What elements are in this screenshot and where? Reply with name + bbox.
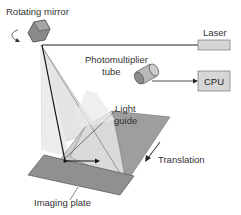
label-rotating-mirror: Rotating mirror — [6, 6, 69, 17]
label-translation: Translation — [158, 154, 205, 165]
translation-arrowhead-icon — [145, 155, 151, 162]
label-imaging-plate: Imaging plate — [34, 197, 91, 208]
cr-reader-diagram: Rotating mirror Laser Photomultiplier tu… — [0, 0, 241, 215]
label-cpu: CPU — [204, 76, 224, 87]
laser-box — [198, 40, 230, 50]
rotating-mirror — [28, 20, 50, 42]
label-photomultiplier-2: tube — [102, 66, 121, 77]
label-light-guide-1: Light — [115, 103, 136, 114]
pmt-cpu-arrowhead — [193, 79, 198, 84]
label-light-guide-2: guide — [114, 115, 137, 126]
photomultiplier-tube — [132, 62, 160, 85]
label-photomultiplier-1: Photomultiplier — [85, 54, 148, 65]
label-laser: Laser — [203, 27, 227, 38]
